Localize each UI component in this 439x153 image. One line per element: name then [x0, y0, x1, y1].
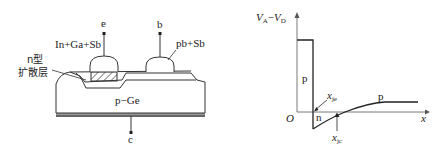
base-alloy-leader: [168, 50, 176, 60]
region-n: n: [316, 111, 322, 123]
base-alloy-label: pb+Sb: [176, 37, 205, 49]
je-label: xje: [326, 89, 337, 103]
region-p-right: p: [378, 90, 384, 102]
emitter-terminal-dot: [103, 32, 106, 35]
base-label: b: [157, 18, 163, 30]
emitter-alloy-dot: [90, 56, 118, 72]
diagram-canvas: e b c In+Ga+Sb pb+Sb n型 扩散层 p−Ge VA−VD O…: [0, 0, 439, 153]
emitter-regrowth-region: [91, 72, 117, 81]
impurity-distribution-plot: VA−VD O x p n p xje xjc: [256, 11, 430, 145]
region-p-left: p: [302, 72, 308, 84]
diffusion-layer-label-1: n型: [27, 53, 43, 65]
y-axis-label: VA−VD: [256, 11, 286, 25]
base-terminal-dot: [159, 32, 162, 35]
transistor-cross-section: e b c In+Ga+Sb pb+Sb n型 扩散层 p−Ge: [18, 17, 205, 145]
base-alloy-dot: [146, 57, 174, 72]
collector-label: c: [128, 133, 133, 145]
emitter-alloy-label: In+Ga+Sb: [55, 38, 102, 50]
y-axis-arrow-icon: [295, 12, 300, 18]
base-collector-profile: [313, 102, 418, 129]
p-emitter-profile: [297, 40, 313, 129]
emitter-label: e: [101, 17, 106, 29]
origin-label: O: [286, 112, 294, 124]
diffusion-layer-label-2: 扩散层: [18, 66, 48, 78]
x-axis-label: x: [420, 112, 426, 124]
substrate-label: p−Ge: [115, 94, 140, 106]
jc-label: xjc: [331, 131, 342, 145]
